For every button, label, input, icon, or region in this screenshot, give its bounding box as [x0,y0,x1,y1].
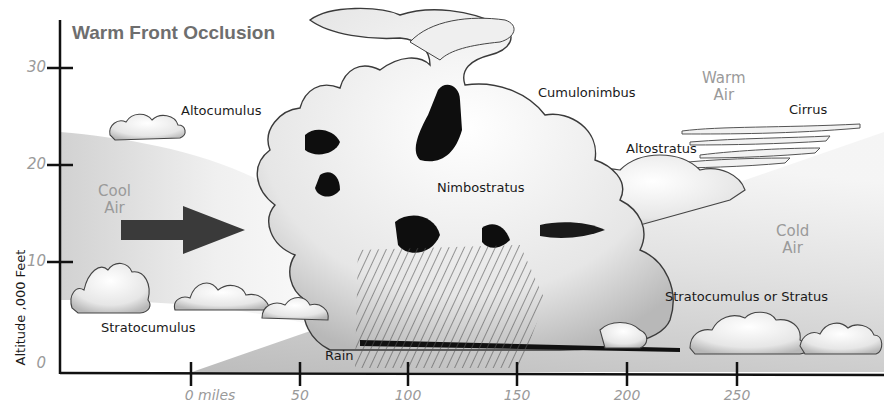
y-tick-20: 20 [8,155,46,173]
x-tick-150: 150 [504,387,531,403]
altostratus-label: Altostratus [626,141,697,156]
cirrus-label: Cirrus [789,102,827,117]
x-tick-100: 100 [395,387,422,403]
x-tick-200: 200 [614,387,641,403]
nimbostratus-label: Nimbostratus [437,180,525,195]
warm-front-occlusion-diagram: Warm Front Occlusion 30 20 10 0 Altitude… [0,0,884,418]
cold-air-label: Cold Air [776,223,809,257]
altocumulus-cloud [110,114,185,140]
x-tick-250: 250 [724,387,751,403]
diagram-title: Warm Front Occlusion [72,22,275,44]
x-tick-50: 50 [291,387,309,403]
cool-air-label: Cool Air [98,183,131,217]
altocumulus-label: Altocumulus [181,103,261,118]
stratocumulus-label: Stratocumulus [101,320,196,335]
stratocumulus-or-stratus-label: Stratocumulus or Stratus [665,289,828,304]
rain-label: Rain [325,348,354,363]
diagram-artwork [0,0,884,418]
rain-streaks [355,245,545,368]
cumulonimbus-label: Cumulonimbus [538,85,636,100]
x-tick-0: 0 miles [185,387,236,403]
y-axis-label: Altitude ,000 Feet [13,248,28,368]
warm-air-label: Warm Air [702,70,746,104]
y-tick-30: 30 [8,58,46,76]
